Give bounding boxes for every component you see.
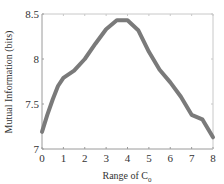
y-tick-label: 7 bbox=[34, 143, 40, 155]
y-axis-label: Mutual Information (bits) bbox=[3, 31, 15, 134]
y-tick-label: 8 bbox=[34, 53, 40, 65]
x-tick-label: 4 bbox=[125, 152, 131, 164]
y-ticks: 77.588.5 bbox=[25, 8, 213, 155]
y-tick-label: 7.5 bbox=[25, 98, 39, 110]
x-tick-label: 5 bbox=[146, 152, 152, 164]
x-tick-label: 0 bbox=[39, 152, 45, 164]
plot-frame bbox=[42, 14, 213, 149]
x-tick-label: 1 bbox=[61, 152, 67, 164]
x-axis-label: Range of C0 bbox=[102, 170, 152, 184]
x-tick-label: 7 bbox=[189, 152, 195, 164]
y-tick-label: 8.5 bbox=[25, 8, 39, 20]
x-tick-label: 8 bbox=[210, 152, 216, 164]
x-tick-label: 3 bbox=[103, 152, 109, 164]
data-line bbox=[42, 20, 213, 137]
x-tick-label: 6 bbox=[168, 152, 174, 164]
line-chart: 012345678 77.588.5 Mutual Information (b… bbox=[0, 0, 224, 184]
x-ticks: 012345678 bbox=[39, 14, 216, 164]
x-tick-label: 2 bbox=[82, 152, 88, 164]
